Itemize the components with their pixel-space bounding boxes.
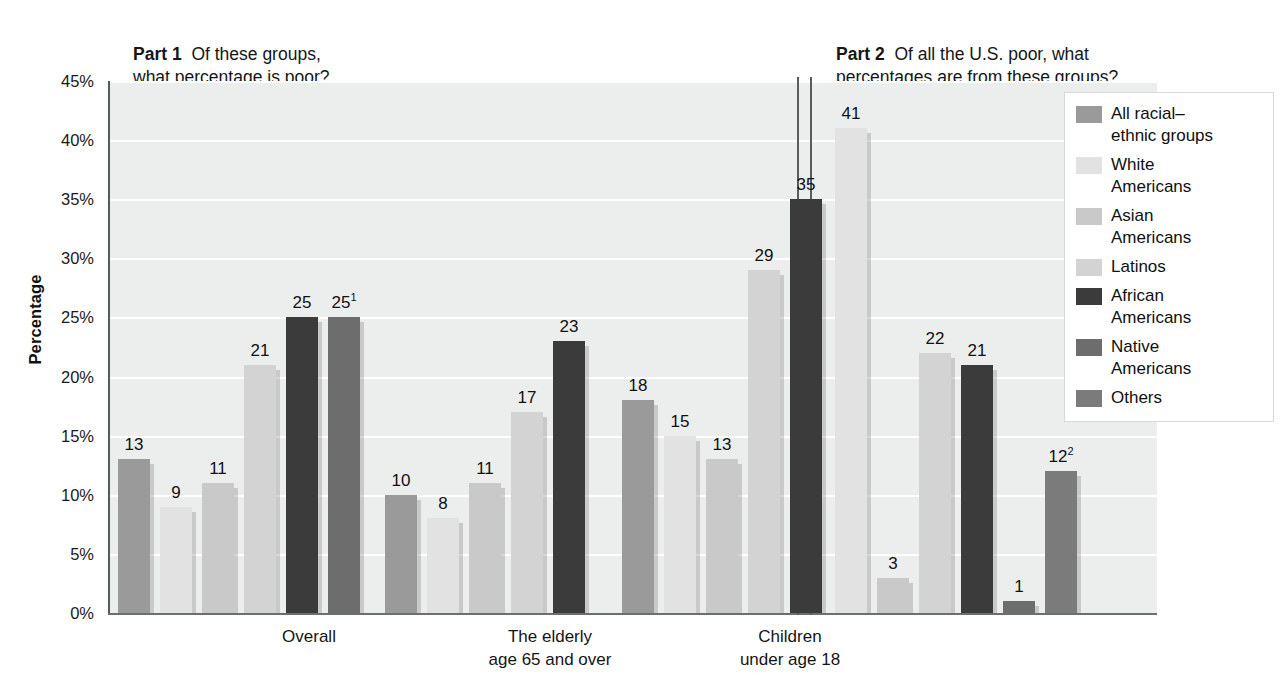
- y-axis-tick-label: 25%: [61, 308, 94, 327]
- bar-shadow: [738, 464, 742, 613]
- bar-value-label: 41: [842, 104, 861, 124]
- bar-value-label: 15: [671, 412, 690, 432]
- bar-shadow: [696, 441, 700, 613]
- legend-swatch: [1076, 339, 1102, 356]
- bar-fill: [664, 436, 696, 613]
- bar-value-label: 13: [713, 435, 732, 455]
- legend-item: African Americans: [1076, 285, 1265, 329]
- bar-fill: [1045, 471, 1077, 613]
- bar-fill: [877, 578, 909, 613]
- bar-shadow: [822, 204, 826, 613]
- y-axis-tick-label: 35%: [61, 190, 94, 209]
- legend-label: Asian Americans: [1111, 205, 1191, 249]
- bar: [919, 353, 951, 613]
- bar: [1045, 471, 1077, 613]
- bar-shadow: [543, 417, 547, 613]
- legend-label: Others: [1111, 387, 1162, 409]
- legend-label: Native Americans: [1111, 336, 1191, 380]
- legend-item: White Americans: [1076, 154, 1265, 198]
- bar: [877, 578, 909, 613]
- chart-figure: Part 1 Of these groups, what percentage …: [0, 0, 1287, 688]
- y-axis-tick-label: 45%: [61, 72, 94, 91]
- legend-label: White Americans: [1111, 154, 1191, 198]
- bar-fill: [202, 483, 234, 613]
- bar-shadow: [501, 488, 505, 613]
- bar-shadow: [909, 583, 913, 613]
- bar: [622, 400, 654, 613]
- x-axis-line: [108, 613, 1157, 615]
- bar: [511, 412, 543, 613]
- bar: [244, 365, 276, 613]
- y-axis-tick-label: 5%: [70, 544, 94, 563]
- bar: [427, 518, 459, 613]
- bar-value-label: 11: [476, 459, 494, 479]
- bar: [790, 199, 822, 613]
- bar-value-label: 22: [926, 329, 945, 349]
- bar-fill: [118, 459, 150, 613]
- part1-heading: Part 1 Of these groups, what percentage …: [133, 20, 563, 89]
- y-axis-tick-label: 40%: [61, 131, 94, 150]
- bar-fill: [961, 365, 993, 613]
- bar-shadow: [417, 500, 421, 613]
- bar-fill: [790, 199, 822, 613]
- bar-shadow: [150, 464, 154, 613]
- bar-shadow: [585, 346, 589, 613]
- bar-fill: [469, 483, 501, 613]
- bar: [748, 270, 780, 613]
- bar-fill: [328, 317, 360, 613]
- bar-shadow: [654, 405, 658, 613]
- legend-item: Others: [1076, 387, 1265, 409]
- legend-item: Asian Americans: [1076, 205, 1265, 249]
- bar-fill: [748, 270, 780, 613]
- bar-value-label: 29: [755, 246, 774, 266]
- x-axis-group-label: The elderly age 65 and over: [489, 625, 612, 671]
- bar-fill: [622, 400, 654, 613]
- legend-item: Native Americans: [1076, 336, 1265, 380]
- bar-value-label: 10: [392, 471, 411, 491]
- y-axis-tick-label: 20%: [61, 367, 94, 386]
- legend-swatch: [1076, 390, 1102, 407]
- bar-value-label: 13: [125, 435, 144, 455]
- part2-label: Part 2: [836, 44, 885, 64]
- part2-heading: Part 2 Of all the U.S. poor, what percen…: [836, 20, 1256, 89]
- bar-value-label: 18: [629, 376, 648, 396]
- x-axis-group-label: Children under age 18: [740, 625, 840, 671]
- bar-fill: [835, 128, 867, 613]
- legend-item: All racial– ethnic groups: [1076, 103, 1265, 147]
- bar-fill: [511, 412, 543, 613]
- bar-shadow: [276, 370, 280, 613]
- bar: [664, 436, 696, 613]
- legend-swatch: [1076, 288, 1102, 305]
- y-axis-line: [108, 81, 110, 613]
- bar-fill: [706, 459, 738, 613]
- y-axis-ticks: 0%5%10%15%20%25%30%35%40%45%: [36, 81, 102, 613]
- bar-fill: [160, 507, 192, 613]
- bar: [385, 495, 417, 613]
- bar-value-label: 21: [968, 341, 987, 361]
- legend-swatch: [1076, 157, 1102, 174]
- bar-shadow: [192, 512, 196, 613]
- bar-shadow: [459, 523, 463, 613]
- bar-value-label: 21: [251, 341, 270, 361]
- legend-swatch: [1076, 208, 1102, 225]
- gridline: [110, 81, 1157, 83]
- bar-value-label: 17: [518, 388, 537, 408]
- bar-shadow: [1035, 606, 1039, 613]
- bar-value-label: 8: [438, 494, 447, 514]
- bar-shadow: [234, 488, 238, 613]
- bar-shadow: [951, 358, 955, 613]
- bar-value-label: 251: [331, 293, 356, 313]
- bar: [1003, 601, 1035, 613]
- bar-value-label: 1: [1014, 577, 1023, 597]
- bar-fill: [1003, 601, 1035, 613]
- bar-value-label: 11: [209, 459, 227, 479]
- bar: [469, 483, 501, 613]
- bar-value-label: 122: [1048, 447, 1073, 467]
- bar-shadow: [993, 370, 997, 613]
- bar: [553, 341, 585, 613]
- bar-shadow: [780, 275, 784, 613]
- legend-swatch: [1076, 106, 1102, 123]
- bar: [961, 365, 993, 613]
- bar-value-label: 3: [888, 554, 897, 574]
- legend-label: Latinos: [1111, 256, 1166, 278]
